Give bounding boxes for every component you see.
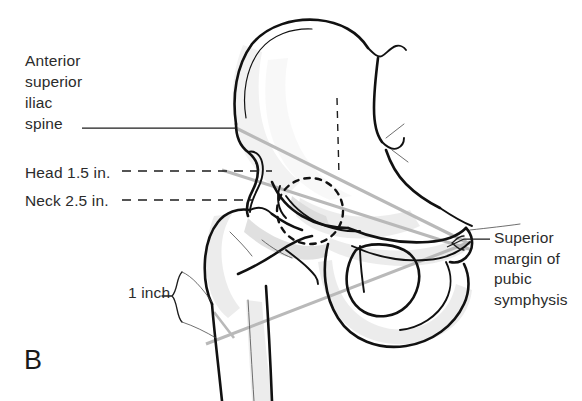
posterior-iliac-crest	[368, 46, 406, 57]
figure-panel: Anterior superior iliac spine Head 1.5 i…	[0, 0, 582, 401]
posterior-spine-detail-2	[392, 150, 408, 162]
measure-tick-one-inch	[214, 312, 234, 338]
posterior-ilium-border	[374, 58, 382, 142]
trochanter-ridge	[250, 208, 272, 214]
posterior-inferior-spine	[382, 138, 404, 149]
label-neck-measurement: Neck 2.5 in.	[25, 190, 109, 211]
bone-shading-group	[206, 45, 472, 401]
lateral-pelvic-edge	[440, 208, 472, 226]
brace-connector-lower	[182, 322, 216, 338]
label-head-measurement: Head 1.5 in.	[25, 162, 110, 183]
label-one-inch: 1 inch	[128, 282, 170, 303]
vertical-reference-dashed-line	[337, 98, 339, 176]
label-anterior-superior-iliac-spine: Anterior superior iliac spine	[25, 50, 82, 134]
label-superior-margin-pubic-symphysis: Superior margin of pubic symphysis	[494, 228, 568, 310]
posterior-spine-detail-1	[386, 124, 404, 138]
greater-sciatic-notch	[386, 150, 440, 208]
panel-letter: B	[24, 345, 42, 376]
